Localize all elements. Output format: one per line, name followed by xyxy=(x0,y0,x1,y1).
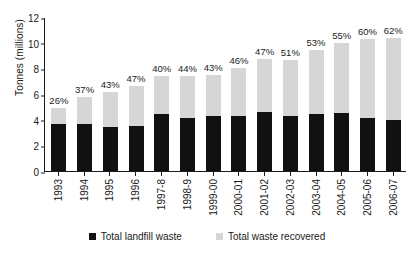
bar-segment-landfill[interactable] xyxy=(283,116,298,171)
bar-percent-label: 46% xyxy=(229,55,248,66)
x-axis-label-slot: 1995 xyxy=(97,177,123,223)
bar-segment-landfill[interactable] xyxy=(309,114,324,171)
x-axis-label: 1993 xyxy=(52,179,63,201)
bar-segment-landfill[interactable] xyxy=(103,127,118,171)
x-axis-label: 2001-02 xyxy=(259,179,270,216)
x-axis-label-slot: 2002-03 xyxy=(277,177,303,223)
bar-slot: 60% xyxy=(355,18,381,171)
bar-slot: 62% xyxy=(380,18,406,171)
bar-segment-landfill[interactable] xyxy=(154,114,169,171)
x-axis-label-slot: 2000-01 xyxy=(225,177,251,223)
bar-slot: 55% xyxy=(329,18,355,171)
bar-stack[interactable]: 44% xyxy=(180,76,195,171)
legend-label: Total waste recovered xyxy=(228,231,325,242)
bar-segment-recovered[interactable] xyxy=(386,38,401,121)
bar-percent-label: 47% xyxy=(255,46,274,57)
bar-segment-landfill[interactable] xyxy=(206,116,221,171)
bar-percent-label: 53% xyxy=(307,37,326,48)
bar-segment-recovered[interactable] xyxy=(154,76,169,114)
bar-segment-recovered[interactable] xyxy=(360,39,375,118)
bar-segment-landfill[interactable] xyxy=(386,120,401,171)
bar-segment-recovered[interactable] xyxy=(77,97,92,123)
bar-percent-label: 51% xyxy=(281,47,300,58)
bar-segment-landfill[interactable] xyxy=(231,116,246,171)
bar-segment-landfill[interactable] xyxy=(51,124,66,171)
legend-item[interactable]: Total waste recovered xyxy=(216,231,325,242)
bar-segment-landfill[interactable] xyxy=(77,124,92,171)
bar-percent-label: 37% xyxy=(75,84,94,95)
x-axis-label-slot: 1997-8 xyxy=(148,177,174,223)
bar-stack[interactable]: 47% xyxy=(129,86,144,171)
bar-segment-recovered[interactable] xyxy=(129,86,144,126)
bar-slot: 40% xyxy=(149,18,175,171)
y-axis-tick-0: 0 xyxy=(33,167,45,178)
bar-segment-recovered[interactable] xyxy=(180,76,195,118)
bar-percent-label: 55% xyxy=(332,30,351,41)
x-axis-label: 1997-8 xyxy=(156,179,167,210)
bar-segment-landfill[interactable] xyxy=(360,118,375,171)
bar-stack[interactable]: 37% xyxy=(77,97,92,171)
bar-stack[interactable]: 26% xyxy=(51,108,66,172)
x-axis-label: 2002-03 xyxy=(284,179,295,216)
bar-slot: 44% xyxy=(175,18,201,171)
x-axis-label: 1995 xyxy=(104,179,115,201)
x-axis-label-slot: 2005-06 xyxy=(354,177,380,223)
bar-stack[interactable]: 40% xyxy=(154,76,169,171)
bar-percent-label: 44% xyxy=(178,63,197,74)
bar-percent-label: 43% xyxy=(101,79,120,90)
bar-stack[interactable]: 47% xyxy=(257,59,272,171)
x-axis-label-slot: 1998-9 xyxy=(174,177,200,223)
y-axis-title: Tonnes (millions) xyxy=(14,0,25,123)
x-axis-label: 1999-00 xyxy=(207,179,218,216)
x-axis-label: 1994 xyxy=(78,179,89,201)
bar-slot: 51% xyxy=(277,18,303,171)
bar-stack[interactable]: 51% xyxy=(283,60,298,171)
x-axis-label-slot: 1996 xyxy=(122,177,148,223)
bar-stack[interactable]: 43% xyxy=(103,92,118,171)
x-axis-label: 1996 xyxy=(130,179,141,201)
bar-segment-recovered[interactable] xyxy=(206,75,221,116)
bar-segment-recovered[interactable] xyxy=(103,92,118,127)
bar-segment-landfill[interactable] xyxy=(129,126,144,171)
x-axis-label: 2005-06 xyxy=(362,179,373,216)
bar-percent-label: 26% xyxy=(49,95,68,106)
bar-slot: 47% xyxy=(123,18,149,171)
bar-slot: 47% xyxy=(252,18,278,171)
bar-segment-recovered[interactable] xyxy=(283,60,298,116)
bar-stack[interactable]: 62% xyxy=(386,38,401,171)
bar-stack[interactable]: 46% xyxy=(231,68,246,171)
bar-segment-landfill[interactable] xyxy=(334,113,349,171)
y-axis-tick-12: 12 xyxy=(28,13,45,24)
chart-legend: Total landfill wasteTotal waste recovere… xyxy=(0,231,414,242)
bar-stack[interactable]: 55% xyxy=(334,43,349,171)
y-axis-tick-4: 4 xyxy=(33,115,45,126)
bar-percent-label: 47% xyxy=(127,73,146,84)
bar-percent-label: 60% xyxy=(358,26,377,37)
bar-segment-recovered[interactable] xyxy=(231,68,246,115)
x-axis-label-slot: 2001-02 xyxy=(251,177,277,223)
x-axis-label-slot: 1994 xyxy=(71,177,97,223)
bar-slot: 43% xyxy=(200,18,226,171)
x-axis-label-slot: 2004-05 xyxy=(329,177,355,223)
bar-segment-recovered[interactable] xyxy=(309,50,324,114)
bar-segment-landfill[interactable] xyxy=(257,112,272,171)
bar-slot: 37% xyxy=(72,18,98,171)
legend-swatch-icon xyxy=(216,233,223,240)
x-axis-label-slot: 2003-04 xyxy=(303,177,329,223)
x-axis-label-slot: 2006-07 xyxy=(380,177,406,223)
legend-item[interactable]: Total landfill waste xyxy=(89,231,182,242)
bar-slot: 53% xyxy=(303,18,329,171)
bar-stack[interactable]: 53% xyxy=(309,50,324,171)
bar-stack[interactable]: 43% xyxy=(206,75,221,171)
bar-percent-label: 43% xyxy=(204,62,223,73)
bar-segment-landfill[interactable] xyxy=(180,118,195,171)
bar-segment-recovered[interactable] xyxy=(257,59,272,112)
bar-segment-recovered[interactable] xyxy=(334,43,349,114)
bar-segment-recovered[interactable] xyxy=(51,108,66,125)
y-axis-tick-10: 10 xyxy=(28,38,45,49)
bar-stack[interactable]: 60% xyxy=(360,39,375,171)
x-axis-label: 2006-07 xyxy=(388,179,399,216)
y-axis-tick-2: 2 xyxy=(33,141,45,152)
plot-area: 121086420 26%37%43%47%40%44%43%46%47%51%… xyxy=(44,18,406,172)
bar-percent-label: 40% xyxy=(152,63,171,74)
